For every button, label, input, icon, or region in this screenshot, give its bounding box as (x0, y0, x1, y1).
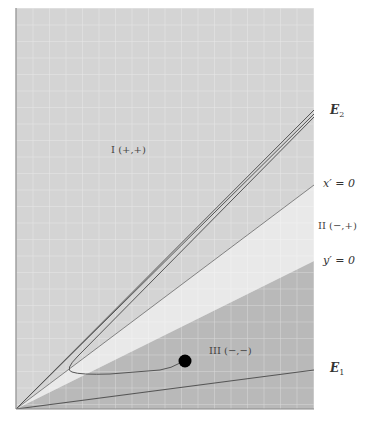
phase-plane-svg (0, 0, 366, 423)
region-III-label: III (−,−) (209, 345, 252, 356)
y-nullcline-label: y′ = 0 (323, 254, 355, 267)
phase-plane-diagram: I (+,+) II (−,+) III (−,−) E2 E1 x′ = 0 … (0, 0, 366, 423)
e2-label-text: E (330, 103, 339, 117)
e1-label-sub: 1 (339, 368, 344, 377)
trajectory-point (179, 355, 192, 368)
region-I-label: I (+,+) (111, 144, 146, 155)
e1-label-text: E (330, 361, 339, 375)
e2-label: E2 (330, 103, 344, 119)
e1-label: E1 (330, 361, 344, 377)
region-II-label: II (−,+) (318, 220, 357, 231)
grid (16, 8, 314, 409)
x-nullcline-label: x′ = 0 (323, 177, 355, 190)
e2-label-sub: 2 (339, 110, 344, 119)
